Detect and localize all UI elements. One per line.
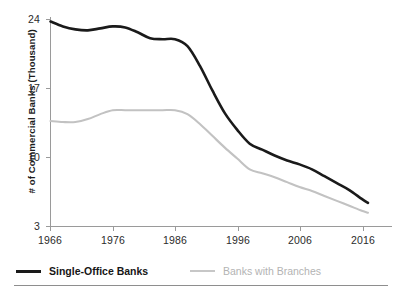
x-tick-label-1986: 1986: [152, 234, 198, 246]
legend-swatch-icon-secondary: [190, 270, 215, 272]
plot-area: 24 17 10 3 1966 1976 1986 1996 2006 2016…: [0, 0, 399, 258]
legend-item-banks-with-branches: Banks with Branches: [190, 263, 321, 279]
x-tick-label-1976: 1976: [90, 234, 136, 246]
y-tick-marks: [46, 20, 51, 227]
chart-canvas: [0, 0, 399, 258]
legend-swatch-icon-primary: [16, 270, 41, 273]
y-axis-title: # of Commercial Banks (Thousand): [26, 34, 37, 194]
x-tick-label-2016: 2016: [340, 234, 386, 246]
x-tick-marks: [51, 227, 364, 232]
legend-item-single-office-banks: Single-Office Banks: [16, 263, 148, 279]
x-tick-label-1996: 1996: [215, 234, 261, 246]
chart-legend: Single-Office Banks Banks with Branches: [0, 262, 399, 282]
chart-figure: 24 17 10 3 1966 1976 1986 1996 2006 2016…: [0, 0, 399, 291]
series-line-single-office-banks: [51, 21, 369, 202]
legend-label-single-office-banks: Single-Office Banks: [49, 265, 148, 277]
x-tick-label-2006: 2006: [277, 234, 323, 246]
footer-divider: [14, 285, 388, 286]
x-tick-label-1966: 1966: [27, 234, 73, 246]
legend-label-banks-with-branches: Banks with Branches: [223, 265, 321, 277]
y-tick-label-24: 24: [14, 13, 40, 25]
y-tick-label-3: 3: [14, 220, 40, 232]
series-line-banks-with-branches: [51, 110, 369, 213]
